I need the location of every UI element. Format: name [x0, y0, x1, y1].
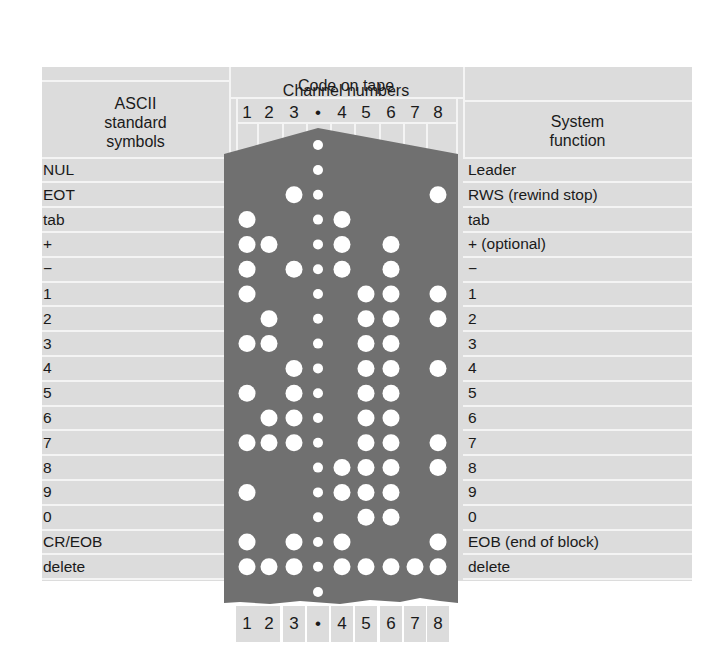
ascii-symbol: 1 [43, 284, 52, 304]
data-hole [334, 261, 351, 278]
system-function: 6 [468, 408, 477, 428]
sprocket-hole [313, 140, 323, 150]
data-hole [358, 286, 375, 303]
ascii-symbol: 8 [43, 458, 52, 478]
channel-number: 4 [331, 606, 353, 642]
system-function: 8 [468, 458, 477, 478]
ascii-symbol: 5 [43, 383, 52, 403]
sprocket-hole [313, 413, 323, 423]
data-hole [286, 534, 303, 551]
data-hole [261, 335, 278, 352]
system-function: 4 [468, 358, 477, 378]
ascii-symbol: 0 [43, 507, 52, 527]
data-hole [239, 236, 256, 253]
sprocket-hole [313, 537, 323, 547]
data-hole [286, 385, 303, 402]
data-hole [358, 385, 375, 402]
data-hole [286, 360, 303, 377]
data-hole [261, 236, 278, 253]
data-hole [383, 434, 400, 451]
channel-number: 3 [283, 606, 305, 642]
data-hole [334, 534, 351, 551]
data-hole [383, 558, 400, 575]
data-hole [334, 459, 351, 476]
system-function: Leader [468, 160, 516, 180]
data-hole [383, 385, 400, 402]
sprocket-hole [313, 339, 323, 349]
data-hole [407, 558, 424, 575]
system-function: tab [468, 210, 490, 230]
sprocket-hole [313, 562, 323, 572]
sprocket-hole [313, 215, 323, 225]
system-function: 1 [468, 284, 477, 304]
data-hole [239, 534, 256, 551]
data-hole [383, 459, 400, 476]
system-function: RWS (rewind stop) [468, 185, 598, 205]
data-hole [286, 558, 303, 575]
data-hole [239, 335, 256, 352]
data-hole [383, 286, 400, 303]
ascii-symbol: + [43, 234, 52, 254]
channel-number: 2 [258, 606, 280, 642]
data-hole [261, 410, 278, 427]
data-hole [261, 310, 278, 327]
sprocket-hole [313, 512, 323, 522]
ascii-symbol: 2 [43, 309, 52, 329]
sprocket-hole [313, 190, 323, 200]
data-hole [383, 484, 400, 501]
data-hole [358, 434, 375, 451]
data-hole [383, 236, 400, 253]
system-function: EOB (end of block) [468, 532, 599, 552]
data-hole [383, 509, 400, 526]
system-function: 0 [468, 507, 477, 527]
sprocket-hole [313, 363, 323, 373]
system-function: 3 [468, 334, 477, 354]
system-function: delete [468, 557, 510, 577]
ascii-symbol: 7 [43, 433, 52, 453]
sprocket-hole [313, 388, 323, 398]
data-hole [430, 534, 447, 551]
data-hole [383, 360, 400, 377]
data-hole [334, 484, 351, 501]
data-hole [430, 434, 447, 451]
system-function: + (optional) [468, 234, 546, 254]
data-hole [358, 484, 375, 501]
data-hole [358, 360, 375, 377]
data-hole [239, 558, 256, 575]
data-hole [430, 558, 447, 575]
data-hole [261, 434, 278, 451]
ascii-symbol: − [43, 259, 52, 279]
ascii-symbol: 6 [43, 408, 52, 428]
data-hole [239, 484, 256, 501]
data-hole [286, 434, 303, 451]
system-function: 2 [468, 309, 477, 329]
data-hole [334, 211, 351, 228]
sprocket-hole [313, 487, 323, 497]
data-hole [430, 310, 447, 327]
data-hole [358, 410, 375, 427]
ascii-symbol: NUL [43, 160, 74, 180]
data-hole [358, 335, 375, 352]
data-hole [430, 186, 447, 203]
data-hole [358, 310, 375, 327]
sprocket-hole [313, 314, 323, 324]
system-function: 5 [468, 383, 477, 403]
sprocket-hole [313, 165, 323, 175]
data-hole [286, 186, 303, 203]
sprocket-hole [313, 289, 323, 299]
data-hole [383, 410, 400, 427]
sprocket-hole [313, 264, 323, 274]
ascii-symbol: 4 [43, 358, 52, 378]
system-function: − [468, 259, 477, 279]
data-hole [430, 459, 447, 476]
sprocket-label: • [307, 606, 329, 642]
channel-number: 1 [236, 606, 258, 642]
paper-tape [0, 0, 718, 658]
sprocket-hole [313, 463, 323, 473]
data-hole [334, 558, 351, 575]
data-hole [383, 335, 400, 352]
data-hole [383, 261, 400, 278]
sprocket-hole [313, 239, 323, 249]
ascii-symbol: delete [43, 557, 85, 577]
data-hole [383, 310, 400, 327]
